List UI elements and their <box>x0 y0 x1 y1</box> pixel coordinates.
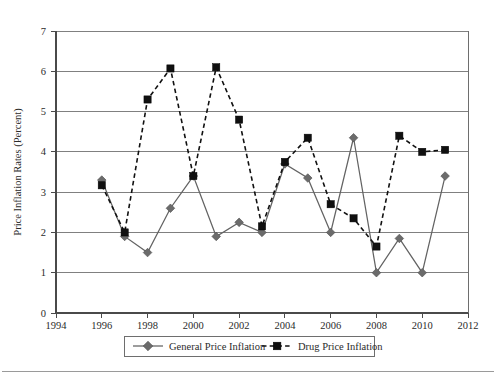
plot-area-background <box>56 31 468 313</box>
data-point-square <box>281 158 288 165</box>
data-point-square <box>167 65 174 72</box>
square-marker-icon <box>273 342 281 350</box>
x-tick-label: 2008 <box>366 320 387 331</box>
y-tick-label: 6 <box>41 66 46 77</box>
data-point-square <box>121 229 128 236</box>
y-tick-label: 3 <box>41 187 46 198</box>
x-axis-tick-labels: 1994 1996 1998 2000 2002 2004 2006 2008 … <box>46 320 479 331</box>
x-tick-label: 2006 <box>320 320 341 331</box>
data-point-square <box>350 215 357 222</box>
legend-label-general: General Price Inflation <box>169 341 266 352</box>
x-tick-label: 1998 <box>137 320 158 331</box>
data-point-square <box>373 243 380 250</box>
x-axis-ticks <box>56 313 468 318</box>
data-point-square <box>258 223 265 230</box>
data-point-square <box>442 146 449 153</box>
chart-legend: General Price Inflation Drug Price Infla… <box>124 336 383 356</box>
data-point-square <box>190 172 197 179</box>
y-tick-label: 0 <box>41 308 46 319</box>
data-point-square <box>213 64 220 71</box>
data-point-square <box>236 116 243 123</box>
x-tick-label: 2010 <box>412 320 433 331</box>
data-point-square <box>144 96 151 103</box>
y-axis-title: Price Inflation Rates (Percent) <box>12 108 24 236</box>
y-tick-label: 7 <box>41 26 46 37</box>
y-tick-label: 4 <box>41 146 47 157</box>
y-axis-ticks <box>51 31 56 313</box>
data-point-square <box>396 132 403 139</box>
data-point-square <box>98 182 105 189</box>
x-tick-label: 2000 <box>183 320 204 331</box>
chart-figure: 0 1 2 3 4 5 6 7 1994 1996 1998 2 <box>0 0 496 379</box>
data-point-square <box>419 148 426 155</box>
y-tick-label: 2 <box>41 227 46 238</box>
y-tick-label: 1 <box>41 267 46 278</box>
x-tick-label: 2012 <box>458 320 479 331</box>
chart-svg: 0 1 2 3 4 5 6 7 1994 1996 1998 2 <box>0 0 496 379</box>
x-tick-label: 1994 <box>46 320 68 331</box>
y-tick-label: 5 <box>41 106 46 117</box>
data-point-square <box>327 201 334 208</box>
y-axis-tick-labels: 0 1 2 3 4 5 6 7 <box>41 26 47 319</box>
x-tick-label: 2004 <box>274 320 296 331</box>
legend-label-drug: Drug Price Inflation <box>298 341 383 352</box>
x-tick-label: 1996 <box>91 320 112 331</box>
data-point-square <box>304 134 311 141</box>
x-tick-label: 2002 <box>229 320 250 331</box>
